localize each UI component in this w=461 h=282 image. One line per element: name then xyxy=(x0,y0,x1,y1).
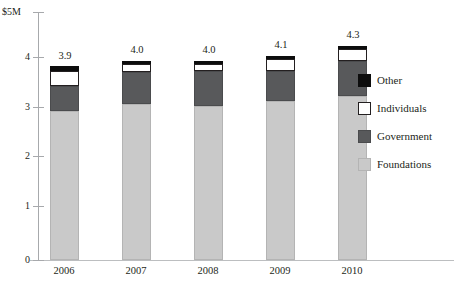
bar-segment-individuals xyxy=(266,59,295,71)
legend-swatch-other-icon xyxy=(358,74,371,87)
x-axis-label-2006: 2006 xyxy=(37,265,91,276)
y-tick-5 xyxy=(33,12,44,13)
bar-segment-foundations xyxy=(122,104,151,260)
bar-segment-foundations xyxy=(50,111,79,260)
y-tick-2 xyxy=(33,156,44,157)
y-tick-label-2: 2 xyxy=(12,150,30,161)
y-axis-unit-label: $5M xyxy=(2,6,21,17)
x-axis-label-2008: 2008 xyxy=(181,265,235,276)
bar-segment-government xyxy=(122,72,151,104)
bar-segment-government xyxy=(50,86,79,111)
y-axis-line xyxy=(38,12,39,261)
x-axis-label-2009: 2009 xyxy=(253,265,307,276)
bar-segment-government xyxy=(266,71,295,101)
bar-segment-other xyxy=(50,66,79,71)
stacked-bar-chart: $5M 4 3 2 1 0 3.9 2006 4.0 2007 4.0 2008 xyxy=(0,0,461,282)
y-tick-label-0: 0 xyxy=(12,254,30,265)
bar-total-label-2006: 3.9 xyxy=(42,50,88,61)
legend-label-foundations: Foundations xyxy=(377,156,431,172)
x-axis-line xyxy=(30,260,454,261)
bar-total-label-2007: 4.0 xyxy=(114,44,160,55)
bar-total-label-2010: 4.3 xyxy=(330,29,376,40)
x-axis-label-2010: 2010 xyxy=(325,265,379,276)
bar-segment-other xyxy=(122,61,151,64)
bar-segment-individuals xyxy=(194,64,223,71)
y-tick-3 xyxy=(33,107,44,108)
bar-segment-individuals xyxy=(50,71,79,86)
legend-swatch-individuals-icon xyxy=(358,102,371,115)
bar-segment-individuals xyxy=(338,49,367,61)
legend-label-government: Government xyxy=(377,128,432,144)
y-tick-label-4: 4 xyxy=(12,51,30,62)
y-tick-1 xyxy=(33,206,44,207)
bar-segment-other xyxy=(194,61,223,64)
bar-segment-foundations xyxy=(338,96,367,260)
bar-total-label-2008: 4.0 xyxy=(186,44,232,55)
bar-segment-government xyxy=(194,71,223,106)
bar-segment-other xyxy=(338,46,367,49)
bar-segment-individuals xyxy=(122,64,151,72)
bar-segment-other xyxy=(266,56,295,59)
bar-segment-foundations xyxy=(266,101,295,260)
legend-label-individuals: Individuals xyxy=(377,100,427,116)
x-axis-label-2007: 2007 xyxy=(109,265,163,276)
legend-label-other: Other xyxy=(377,72,402,88)
y-tick-0 xyxy=(33,260,44,261)
bar-total-label-2009: 4.1 xyxy=(258,39,304,50)
legend-swatch-foundations-icon xyxy=(358,158,371,171)
legend-swatch-government-icon xyxy=(358,130,371,143)
y-tick-label-3: 3 xyxy=(12,101,30,112)
y-tick-label-1: 1 xyxy=(12,200,30,211)
bar-segment-foundations xyxy=(194,106,223,260)
